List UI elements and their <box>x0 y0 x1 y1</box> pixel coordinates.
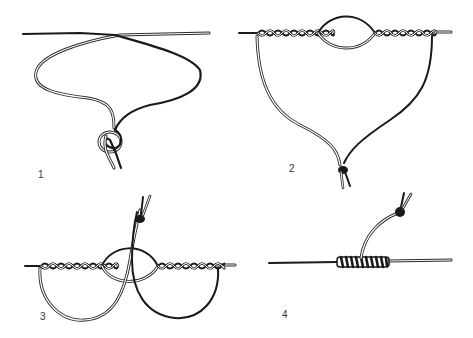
twist-left-2 <box>258 31 334 36</box>
knot-illustration <box>0 0 473 338</box>
knot-2 <box>338 166 350 188</box>
step-label-3: 3 <box>40 312 46 322</box>
panel-1-drawing <box>23 33 209 168</box>
panel-4-drawing <box>269 193 451 267</box>
panel-2-drawing <box>239 16 451 188</box>
barrel-wraps <box>337 257 389 267</box>
knot-4 <box>395 193 411 217</box>
knot-3 <box>135 196 150 223</box>
step-label-4: 4 <box>282 310 288 320</box>
twist-left-3 <box>41 264 118 269</box>
twist-right-2 <box>375 31 436 36</box>
knot-diagram: 1 2 3 4 <box>0 0 473 338</box>
step-label-2: 2 <box>289 164 295 174</box>
twist-right-3 <box>158 264 224 269</box>
panel-3-drawing <box>25 196 235 320</box>
step-label-1: 1 <box>38 170 44 180</box>
